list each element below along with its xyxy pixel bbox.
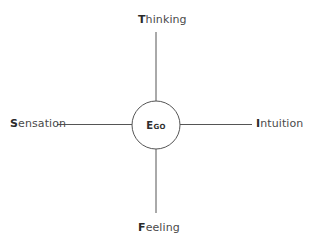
- ego-label: Ego: [132, 101, 180, 149]
- label-thinking-initial: T: [138, 13, 146, 26]
- label-feeling: Feeling: [138, 222, 180, 234]
- label-thinking-rest: hinking: [146, 13, 187, 26]
- label-thinking: Thinking: [138, 14, 187, 26]
- label-feeling-initial: F: [138, 221, 146, 234]
- label-intuition: Intuition: [256, 118, 303, 130]
- label-feeling-rest: eeling: [146, 221, 180, 234]
- label-sensation-rest: ensation: [18, 117, 66, 130]
- label-sensation: Sensation: [10, 118, 66, 130]
- diagram-canvas: Ego Thinking Sensation Intuition Feeling: [0, 0, 309, 245]
- label-intuition-rest: ntuition: [260, 117, 303, 130]
- label-sensation-initial: S: [10, 117, 18, 130]
